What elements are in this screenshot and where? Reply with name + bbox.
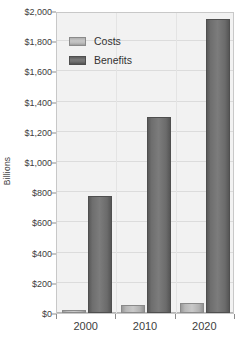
y-axis-tick-label: $2,000: [0, 7, 52, 17]
legend-swatch-costs-icon: [69, 37, 86, 46]
bar-benefits-2010: [147, 117, 171, 313]
category-separator: [176, 13, 177, 313]
y-axis-tick-label: $1,000: [0, 158, 52, 168]
y-axis-tick-label: $0: [0, 309, 52, 319]
bar-chart: Billions $0$200$400$600$800$1,000$1,200$…: [0, 0, 248, 341]
x-axis-tick-mark: [56, 314, 57, 319]
x-axis-tick-label-2010: 2010: [133, 320, 157, 332]
legend-item-benefits: Benefits: [69, 52, 132, 68]
y-axis-tick-label: $1,800: [0, 37, 52, 47]
y-axis-tick-label: $200: [0, 279, 52, 289]
bar-benefits-2000: [88, 196, 112, 313]
x-axis-tick-label-2020: 2020: [192, 320, 216, 332]
legend-label-benefits: Benefits: [94, 54, 132, 66]
x-axis-tick-label-2000: 2000: [73, 320, 97, 332]
x-axis-tick-mark: [175, 314, 176, 319]
bar-costs-2020: [180, 303, 204, 313]
legend-item-costs: Costs: [69, 33, 132, 49]
x-axis-tick-mark: [234, 314, 235, 319]
y-axis-tick-label: $800: [0, 188, 52, 198]
y-axis-tick-label: $1,200: [0, 128, 52, 138]
bar-benefits-2020: [206, 19, 230, 313]
y-axis-title: Billions: [0, 0, 14, 341]
y-axis-tick-label: $400: [0, 249, 52, 259]
bar-costs-2010: [121, 305, 145, 313]
y-axis-tick-label: $1,400: [0, 98, 52, 108]
y-axis-tick-label: $600: [0, 218, 52, 228]
bar-costs-2000: [62, 310, 86, 313]
y-axis-tick-label: $1,600: [0, 67, 52, 77]
legend-label-costs: Costs: [94, 35, 121, 47]
x-axis-tick-mark: [115, 314, 116, 319]
chart-legend: Costs Benefits: [69, 33, 132, 71]
legend-swatch-benefits-icon: [69, 56, 86, 65]
